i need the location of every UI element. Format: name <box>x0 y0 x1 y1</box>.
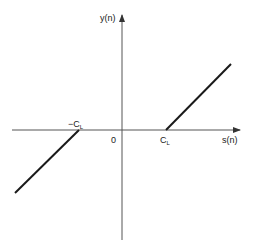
y-axis-label: y(n) <box>100 13 116 23</box>
origin-label: 0 <box>111 135 116 145</box>
negative-segment <box>15 130 79 193</box>
pos-threshold-label: CL <box>160 135 171 146</box>
x-axis-label: s(n) <box>222 135 238 145</box>
positive-segment <box>166 64 231 130</box>
dead-zone-diagram: y(n) s(n) 0 −CL CL <box>0 0 257 251</box>
neg-threshold-label: −CL <box>68 119 84 130</box>
